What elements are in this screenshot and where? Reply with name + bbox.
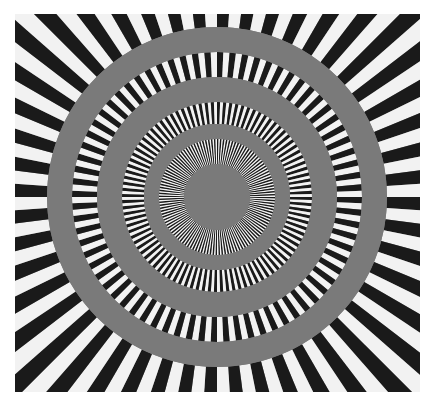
center-disk	[184, 164, 250, 230]
siemens-star-graphic	[15, 14, 420, 392]
siemens-star-test-pattern	[15, 14, 420, 392]
